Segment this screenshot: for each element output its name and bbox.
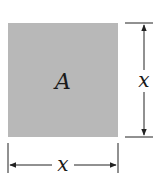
square-area-diagram: A x x <box>0 0 155 184</box>
height-dimension: x <box>125 23 153 137</box>
area-label: A <box>53 69 71 94</box>
width-label: x <box>57 152 68 176</box>
height-label: x <box>138 68 149 92</box>
width-dimension: x <box>8 143 118 176</box>
